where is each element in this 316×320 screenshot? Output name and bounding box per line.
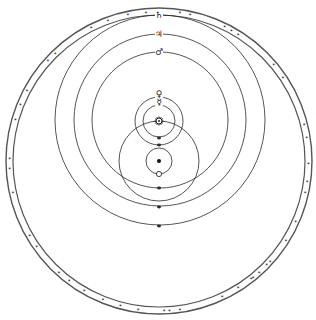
star-icon: ✶: [136, 307, 140, 312]
axis-marks: [157, 137, 161, 228]
star-icon: ✶: [8, 166, 12, 171]
star-icon: ✶: [302, 122, 306, 127]
axis-dot: [157, 144, 161, 147]
earth-icon: [157, 159, 161, 163]
star-icon: ✶: [28, 233, 32, 238]
star-icon: ✶: [178, 307, 182, 312]
star-icon: ✶: [35, 244, 39, 249]
star-icon: ✶: [294, 219, 298, 224]
star-icon: ✶: [223, 24, 227, 29]
star-icon: ✶: [178, 10, 182, 15]
star-icon: ✶: [307, 161, 311, 166]
mars-symbol-icon: ♂: [155, 47, 163, 57]
star-icon: ✶: [236, 285, 240, 290]
star-icon: ✶: [257, 270, 261, 275]
star-icon: ✶: [89, 25, 93, 30]
star-icon: ✶: [106, 18, 110, 23]
celestial-bodies: ☿♀♂♃♄: [154, 10, 163, 177]
star-icon: ✶: [118, 303, 122, 308]
saturn-symbol-icon: ♄: [155, 10, 163, 20]
star-icon: ✶: [126, 12, 130, 17]
star-icon: ✶: [13, 117, 17, 122]
star-icon: ✶: [305, 135, 309, 140]
star-icon: ✶: [57, 270, 61, 275]
star-icon: ✶: [18, 102, 22, 107]
star-icon: ✶: [281, 75, 285, 80]
star-icon: ✶: [162, 308, 166, 313]
star-icon: ✶: [272, 62, 276, 67]
star-icon: ✶: [101, 297, 105, 302]
star-icon: ✶: [168, 308, 172, 313]
star-icon: ✶: [82, 288, 86, 293]
star-icon: ✶: [8, 156, 12, 161]
moon-icon: [156, 171, 161, 176]
star-icon: ✶: [303, 190, 307, 195]
venus-symbol-icon: ♀: [156, 89, 163, 99]
axis-dot: [157, 225, 161, 228]
star-icon: ✶: [25, 88, 29, 93]
star-icon: ✶: [11, 190, 15, 195]
star-icon: ✶: [53, 51, 57, 56]
cosmological-diagram: ✶✶✶✶✶✶✶✶✶✶✶✶✶✶✶✶✶✶✶✶✶✶✶✶✶✶✶✶✶✶✶✶✶✶✶✶✶✶✶✶…: [0, 0, 316, 320]
star-icon: ✶: [188, 12, 192, 17]
star-icon: ✶: [220, 294, 224, 299]
star-icon: ✶: [265, 262, 269, 267]
star-icon: ✶: [236, 32, 240, 37]
star-icon: ✶: [305, 179, 309, 184]
star-icon: ✶: [67, 278, 71, 283]
jupiter-symbol-icon: ♃: [155, 29, 163, 39]
star-icon: ✶: [230, 28, 234, 33]
star-icon: ✶: [249, 276, 253, 281]
star-icon: ✶: [268, 259, 272, 264]
axis-dot: [157, 137, 161, 140]
star-icon: ✶: [284, 238, 288, 243]
axis-dot: [157, 187, 161, 190]
axis-dot: [157, 206, 161, 209]
star-icon: ✶: [46, 58, 50, 63]
star-icon: ✶: [144, 10, 148, 15]
sun-center-dot: [158, 120, 160, 122]
